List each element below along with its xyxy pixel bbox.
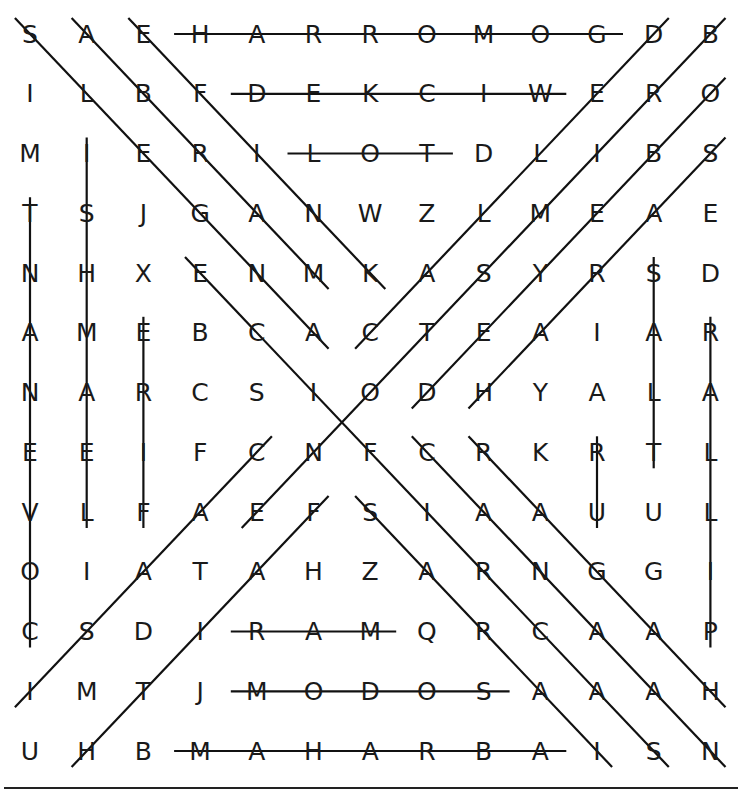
grid-cell[interactable]: R [577, 253, 617, 293]
grid-cell[interactable]: A [464, 492, 504, 532]
grid-cell[interactable]: A [237, 14, 277, 54]
grid-cell[interactable]: H [180, 14, 220, 54]
grid-cell[interactable]: I [407, 492, 447, 532]
grid-cell[interactable]: R [407, 731, 447, 771]
grid-cell[interactable]: S [237, 373, 277, 413]
grid-cell[interactable]: I [294, 373, 334, 413]
grid-cell[interactable]: C [407, 432, 447, 472]
grid-cell[interactable]: E [237, 492, 277, 532]
grid-cell[interactable]: W [520, 74, 560, 114]
grid-cell[interactable]: R [237, 612, 277, 652]
grid-cell[interactable]: D [407, 373, 447, 413]
grid-cell[interactable]: K [350, 74, 390, 114]
grid-cell[interactable]: B [690, 14, 730, 54]
grid-cell[interactable]: G [577, 14, 617, 54]
grid-cell[interactable]: I [237, 134, 277, 174]
grid-cell[interactable]: X [123, 253, 163, 293]
grid-cell[interactable]: A [520, 671, 560, 711]
grid-cell[interactable]: E [690, 193, 730, 233]
grid-cell[interactable]: M [67, 313, 107, 353]
grid-cell[interactable]: A [123, 552, 163, 592]
grid-cell[interactable]: H [294, 731, 334, 771]
grid-cell[interactable]: H [294, 552, 334, 592]
grid-cell[interactable]: O [294, 671, 334, 711]
grid-cell[interactable]: N [520, 552, 560, 592]
grid-cell[interactable]: A [634, 671, 674, 711]
grid-cell[interactable]: I [577, 313, 617, 353]
grid-cell[interactable]: M [180, 731, 220, 771]
grid-cell[interactable]: D [690, 253, 730, 293]
grid-cell[interactable]: I [577, 134, 617, 174]
grid-cell[interactable]: S [350, 492, 390, 532]
grid-cell[interactable]: R [350, 14, 390, 54]
grid-cell[interactable]: A [634, 193, 674, 233]
grid-cell[interactable]: E [10, 432, 50, 472]
grid-cell[interactable]: R [690, 313, 730, 353]
grid-cell[interactable]: A [634, 313, 674, 353]
grid-cell[interactable]: H [67, 731, 107, 771]
grid-cell[interactable]: E [123, 313, 163, 353]
grid-cell[interactable]: E [123, 134, 163, 174]
grid-cell[interactable]: M [67, 671, 107, 711]
grid-cell[interactable]: L [464, 193, 504, 233]
grid-cell[interactable]: O [407, 14, 447, 54]
grid-cell[interactable]: A [294, 313, 334, 353]
grid-cell[interactable]: S [634, 731, 674, 771]
grid-cell[interactable]: H [690, 671, 730, 711]
grid-cell[interactable]: F [180, 432, 220, 472]
grid-cell[interactable]: A [520, 492, 560, 532]
grid-cell[interactable]: I [10, 74, 50, 114]
grid-cell[interactable]: R [464, 432, 504, 472]
grid-cell[interactable]: Z [350, 552, 390, 592]
grid-cell[interactable]: L [294, 134, 334, 174]
grid-cell[interactable]: A [407, 253, 447, 293]
grid-cell[interactable]: S [690, 134, 730, 174]
grid-cell[interactable]: I [67, 134, 107, 174]
grid-cell[interactable]: O [407, 671, 447, 711]
grid-cell[interactable]: F [350, 432, 390, 472]
grid-cell[interactable]: L [690, 492, 730, 532]
grid-cell[interactable]: A [10, 313, 50, 353]
grid-cell[interactable]: W [350, 193, 390, 233]
grid-cell[interactable]: F [294, 492, 334, 532]
grid-cell[interactable]: T [634, 432, 674, 472]
grid-cell[interactable]: F [180, 74, 220, 114]
grid-cell[interactable]: J [180, 671, 220, 711]
grid-cell[interactable]: I [10, 671, 50, 711]
grid-cell[interactable]: S [67, 193, 107, 233]
grid-cell[interactable]: E [464, 313, 504, 353]
grid-cell[interactable]: G [634, 552, 674, 592]
grid-cell[interactable]: E [577, 74, 617, 114]
grid-cell[interactable]: S [464, 253, 504, 293]
grid-cell[interactable]: A [67, 373, 107, 413]
grid-cell[interactable]: R [180, 134, 220, 174]
grid-cell[interactable]: G [577, 552, 617, 592]
grid-cell[interactable]: B [123, 731, 163, 771]
grid-cell[interactable]: D [350, 671, 390, 711]
grid-cell[interactable]: S [634, 253, 674, 293]
grid-cell[interactable]: D [237, 74, 277, 114]
grid-cell[interactable]: M [294, 253, 334, 293]
grid-cell[interactable]: I [180, 612, 220, 652]
grid-cell[interactable]: T [407, 134, 447, 174]
grid-cell[interactable]: M [350, 612, 390, 652]
grid-cell[interactable]: E [67, 432, 107, 472]
grid-cell[interactable]: N [10, 373, 50, 413]
grid-cell[interactable]: V [10, 492, 50, 532]
grid-cell[interactable]: A [237, 193, 277, 233]
grid-cell[interactable]: Z [407, 193, 447, 233]
grid-cell[interactable]: E [180, 253, 220, 293]
grid-cell[interactable]: A [577, 373, 617, 413]
grid-cell[interactable]: K [520, 432, 560, 472]
grid-cell[interactable]: R [464, 612, 504, 652]
grid-cell[interactable]: A [577, 612, 617, 652]
grid-cell[interactable]: I [690, 552, 730, 592]
grid-cell[interactable]: A [350, 731, 390, 771]
grid-cell[interactable]: P [690, 612, 730, 652]
grid-cell[interactable]: B [464, 731, 504, 771]
grid-cell[interactable]: O [350, 373, 390, 413]
grid-cell[interactable]: Y [520, 373, 560, 413]
grid-cell[interactable]: K [350, 253, 390, 293]
grid-cell[interactable]: C [237, 313, 277, 353]
grid-cell[interactable]: N [237, 253, 277, 293]
